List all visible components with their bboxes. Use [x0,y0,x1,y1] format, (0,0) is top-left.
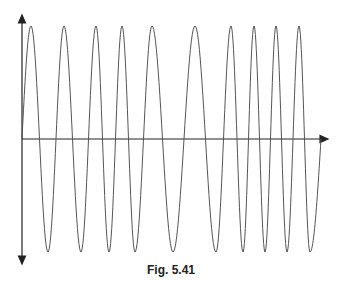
y-axis-up-arrow-icon [19,15,26,23]
fm-waveform-diagram [0,0,342,282]
figure-caption: Fig. 5.41 [0,263,342,277]
